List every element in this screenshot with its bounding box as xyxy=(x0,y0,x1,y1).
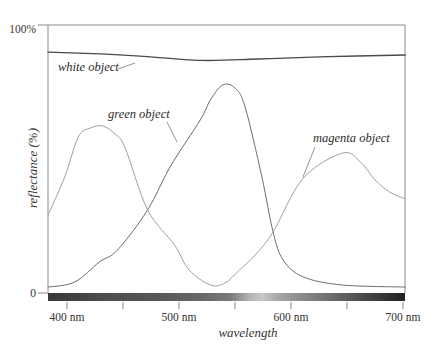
annotation-green-object: green object xyxy=(108,107,170,121)
x-tick-label-400: 400 nm xyxy=(50,311,85,323)
x-axis-title: wavelength xyxy=(218,325,277,340)
y-tick-label-100: 100% xyxy=(9,23,36,35)
leader-line-green-object xyxy=(167,122,177,142)
x-tick-label-700: 700 nm xyxy=(386,311,421,323)
x-tick-label-500: 500 nm xyxy=(162,311,197,323)
x-tick-label-600: 600 nm xyxy=(274,311,309,323)
spectrum-bar xyxy=(48,293,405,301)
curve-magenta-object xyxy=(48,126,405,286)
x-ticks-group: 400 nm500 nm600 nm700 nm xyxy=(50,302,421,323)
annotation-magenta-object: magenta object xyxy=(313,131,390,145)
y-axis-title: reflectance (%) xyxy=(25,128,40,208)
curves-group xyxy=(48,52,405,287)
leader-line-white-object xyxy=(118,63,135,69)
reflectance-chart: 100% 0 reflectance (%) 400 nm500 nm600 n… xyxy=(0,0,440,354)
annotation-white-object: white object xyxy=(58,60,119,74)
y-tick-label-0: 0 xyxy=(30,287,36,299)
curve-green-object xyxy=(48,84,405,287)
